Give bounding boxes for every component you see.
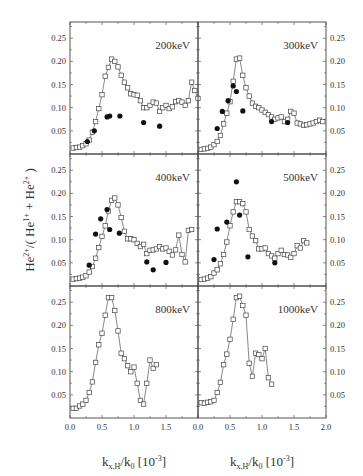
open-square-marker [215,139,219,143]
y-tick-label: 0.10 [330,103,345,113]
open-square-marker [225,240,229,244]
filled-circle-marker [215,226,220,231]
filled-circle-marker [224,220,229,225]
y-tick-label: 0.25 [51,165,66,175]
y-tick-label: 0.20 [330,56,345,66]
x-tick-label: 1.0 [129,422,140,432]
y-tick-label: 0.20 [330,188,345,198]
open-square-marker [116,203,120,207]
y-tick-label: 0.05 [330,258,345,268]
filled-circle-marker [92,128,97,133]
open-square-marker [93,256,97,260]
open-square-marker [122,229,126,233]
filled-circle-marker [141,120,146,125]
open-square-marker [119,351,123,355]
open-square-marker [113,196,117,200]
open-square-marker [292,111,296,115]
filled-circle-marker [151,267,156,272]
series-line [73,298,156,409]
open-square-marker [141,242,145,246]
series-line [201,296,271,403]
open-square-marker [321,119,325,123]
open-square-marker [263,346,267,350]
panel-800keV: 800keV [70,286,198,418]
open-square-marker [87,270,91,274]
open-square-marker [241,201,245,205]
y-tick-label: 0.10 [51,235,66,245]
open-square-marker [93,360,97,364]
open-square-marker [237,56,241,60]
open-square-marker [215,390,219,394]
open-square-marker [183,103,187,107]
filled-circle-marker [272,260,277,265]
open-square-marker [183,260,187,264]
open-square-marker [93,119,97,123]
open-square-marker [186,99,190,103]
open-square-marker [228,337,232,341]
open-square-marker [177,233,181,237]
panel-label: 500keV [283,171,318,183]
panel-300keV: 300keV [198,22,326,154]
filled-circle-marker [117,113,122,118]
chart-canvas: 200keV300keV400keV500keV800keV1000keV 0.… [0,0,363,476]
panel-label: 1000keV [278,303,318,315]
open-square-marker [244,313,248,317]
open-square-marker [247,94,251,98]
x-tick-label: 1.0 [257,422,268,432]
open-square-marker [113,59,117,63]
filled-circle-marker [215,126,220,131]
y-tick-label: 0.15 [51,344,66,354]
open-square-marker [103,224,107,228]
y-tick-label: 0.15 [51,80,66,90]
filled-circle-marker [87,263,92,268]
x-tick-label: 1.5 [289,422,300,432]
open-square-marker [103,313,107,317]
open-square-marker [100,93,104,97]
open-square-marker [170,253,174,257]
open-square-marker [231,79,235,83]
panel-label: 300keV [283,39,318,51]
open-square-marker [100,331,104,335]
open-square-marker [97,106,101,110]
open-square-marker [145,381,149,385]
open-square-marker [132,365,136,369]
open-square-marker [141,402,145,406]
open-square-marker [218,380,222,384]
open-square-marker [138,99,142,103]
panel-400keV: 400keV [70,154,198,286]
y-tick-label: 0.20 [51,188,66,198]
panel-label: 200keV [155,39,190,51]
filled-circle-marker [105,207,110,212]
open-square-marker [221,252,225,256]
y-tick-label: 0.05 [330,126,345,136]
open-square-marker [212,398,216,402]
open-square-marker [279,248,283,252]
open-square-marker [148,358,152,362]
open-square-marker [247,227,251,231]
open-square-marker [97,245,101,249]
figure: 200keV300keV400keV500keV800keV1000keV 0.… [0,0,363,476]
open-square-marker [215,268,219,272]
filled-circle-marker [93,232,98,237]
open-square-marker [125,364,129,368]
filled-circle-marker [220,109,225,114]
y-tick-label: 0.05 [51,258,66,268]
y-tick-label: 0.10 [51,103,66,113]
open-square-marker [221,122,225,126]
filled-circle-marker [144,259,149,264]
filled-circle-marker [211,257,216,262]
y-tick-label: 0.10 [330,235,345,245]
filled-circle-marker [234,179,239,184]
open-square-marker [109,295,113,299]
filled-circle-marker [107,227,112,232]
x-axis-label-right: kx,H/k0 [10-3] [230,454,294,471]
open-square-marker [170,105,174,109]
open-square-marker [260,357,264,361]
filled-circle-marker [234,89,239,94]
open-square-marker [279,115,283,119]
open-square-marker [250,234,254,238]
x-tick-label: 2.0 [321,422,332,432]
x-tick-label: 0.5 [97,422,108,432]
filled-circle-marker [240,108,245,113]
open-square-marker [244,86,248,90]
